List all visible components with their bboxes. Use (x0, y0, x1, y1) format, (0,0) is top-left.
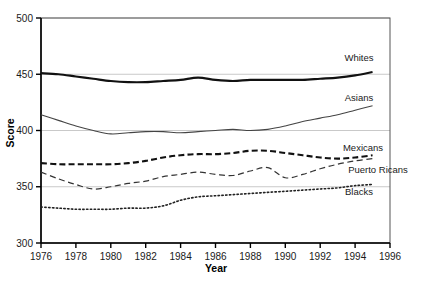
x-tick-label-1976: 1976 (30, 251, 53, 262)
y-tick-label-500: 500 (16, 13, 33, 24)
y-tick-label-450: 450 (16, 69, 33, 80)
series-label-blacks: Blacks (345, 186, 373, 197)
x-tick-label-1980: 1980 (100, 251, 123, 262)
x-tick-label-1990: 1990 (274, 251, 297, 262)
x-axis-title: Year (205, 262, 227, 274)
x-tick-label-1994: 1994 (344, 251, 367, 262)
x-axis-tick-labels: 1976197819801982198419861988199019921994… (30, 251, 402, 262)
y-axis-tick-labels: 300350400450500 (16, 13, 33, 249)
x-tick-label-1978: 1978 (65, 251, 88, 262)
line-chart: 300350400450500 197619781980198219841986… (0, 0, 435, 281)
x-tick-label-1988: 1988 (239, 251, 262, 262)
y-tick-label-350: 350 (16, 181, 33, 192)
x-tick-label-1982: 1982 (135, 251, 158, 262)
chart-container: 300350400450500 197619781980198219841986… (0, 0, 435, 281)
y-tick-label-400: 400 (16, 125, 33, 136)
y-axis-title: Score (4, 118, 16, 147)
x-tick-label-1986: 1986 (204, 251, 227, 262)
y-tick-label-300: 300 (16, 238, 33, 249)
series-label-mexicans: Mexicans (343, 142, 383, 153)
x-tick-label-1992: 1992 (309, 251, 332, 262)
x-tick-label-1996: 1996 (379, 251, 402, 262)
x-tick-label-1984: 1984 (169, 251, 192, 262)
series-label-puerto-ricans: Puerto Ricans (348, 164, 408, 175)
series-label-asians: Asians (345, 92, 374, 103)
series-label-whites: Whites (344, 52, 373, 63)
